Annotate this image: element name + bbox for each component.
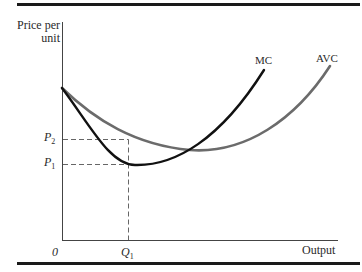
mc-curve [62, 70, 264, 165]
top-rule [17, 3, 360, 6]
avc-curve [62, 66, 330, 150]
mc-curve-label: MC [255, 54, 272, 67]
p2-tick-label: P2 [44, 131, 55, 148]
x-axis-label: Output [302, 244, 335, 257]
avc-curve-label: AVC [316, 52, 338, 65]
y-axis-label-line2: unit [4, 32, 60, 45]
bottom-rule [17, 262, 360, 265]
q1-tick-label: Q1 [121, 246, 134, 263]
y-axis-label: Price per unit [4, 19, 60, 45]
cost-curves-diagram: Price per unit P2 P1 0 Q1 Output MC AVC [0, 0, 362, 272]
origin-label: 0 [52, 246, 58, 259]
p1-tick-label: P1 [44, 156, 55, 173]
